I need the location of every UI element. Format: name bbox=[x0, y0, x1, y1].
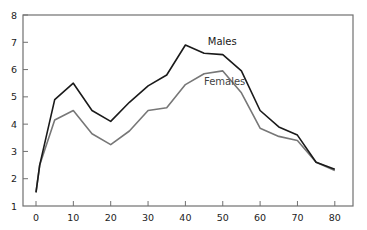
x-tick-label: 40 bbox=[179, 212, 191, 223]
x-tick-label: 50 bbox=[217, 212, 229, 223]
x-tick-label: 0 bbox=[33, 212, 39, 223]
y-axis: 12345678 bbox=[11, 10, 28, 212]
males-label: Males bbox=[208, 36, 237, 47]
y-tick-label: 5 bbox=[11, 91, 17, 102]
x-axis: 01020304050607080 bbox=[33, 201, 341, 223]
y-tick-label: 4 bbox=[11, 119, 17, 130]
y-tick-label: 8 bbox=[11, 10, 17, 21]
line-chart: 12345678 01020304050607080 Males Females bbox=[0, 0, 367, 230]
x-tick-label: 80 bbox=[329, 212, 341, 223]
x-tick-label: 70 bbox=[291, 212, 303, 223]
y-tick-label: 6 bbox=[11, 64, 17, 75]
x-tick-label: 60 bbox=[254, 212, 266, 223]
series-lines bbox=[36, 45, 335, 192]
females-label: Females bbox=[204, 76, 245, 87]
x-tick-label: 30 bbox=[142, 212, 154, 223]
y-tick-label: 3 bbox=[11, 146, 17, 157]
x-tick-label: 20 bbox=[105, 212, 117, 223]
y-tick-label: 1 bbox=[11, 201, 17, 212]
x-tick-label: 10 bbox=[67, 212, 79, 223]
y-tick-label: 7 bbox=[11, 37, 17, 48]
y-tick-label: 2 bbox=[11, 173, 17, 184]
